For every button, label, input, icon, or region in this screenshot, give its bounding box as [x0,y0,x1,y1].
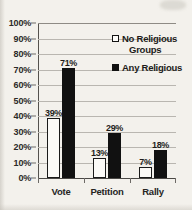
legend-label-line1: Any Religious [122,62,182,73]
bar-rally-any-religious: 18% [154,150,167,178]
legend-label-any-religious: Any Religious [122,62,182,73]
y-tick-50 [31,100,36,101]
legend-label-line1: No Religious [122,33,177,44]
x-tick-0 [38,178,39,183]
y-tick-label-40: 40% [14,111,31,121]
x-axis-label-petition: Petition [90,186,123,197]
bar-vote-no-religious-groups: 39% [47,118,60,178]
y-tick-label-0: 0% [18,173,31,183]
y-tick-90 [31,38,36,39]
y-tick-label-20: 20% [14,142,31,152]
legend-label-line2: Groups [122,44,177,55]
legend-swatch-hollow-square-icon [112,35,119,42]
y-tick-20 [31,147,36,148]
bar-value-label: 39% [45,108,62,118]
legend-item-no-religious-groups: No Religious Groups [112,33,190,55]
x-tick-1 [84,178,85,183]
y-tick-60 [31,85,36,86]
x-tick-2 [130,178,131,183]
bar-vote-any-religious: 71% [62,68,75,178]
x-axis-labels: VotePetitionRally [38,186,176,202]
y-tick-100 [31,23,36,24]
y-tick-label-100: 100% [9,18,31,28]
y-tick-label-50: 50% [14,96,31,106]
bar-value-label: 13% [91,148,108,158]
y-tick-80 [31,54,36,55]
bar-value-label: 71% [60,58,77,68]
bar-group-vote: 39%71% [38,23,84,178]
y-tick-label-30: 30% [14,127,31,137]
y-tick-0 [31,178,36,179]
y-tick-label-10: 10% [14,158,31,168]
x-axis-ticks [38,178,176,183]
y-tick-40 [31,116,36,117]
bar-value-label: 7% [139,157,151,167]
legend-swatch-filled-square-icon [112,64,119,71]
legend-item-any-religious: Any Religious [112,62,190,73]
y-axis-labels: 0%10%20%30%40%50%60%70%80%90%100% [0,23,36,178]
x-tick-3 [175,178,176,183]
y-tick-70 [31,69,36,70]
y-tick-label-60: 60% [14,80,31,90]
y-tick-label-90: 90% [14,34,31,44]
bar-value-label: 29% [106,123,123,133]
x-axis-label-rally: Rally [142,186,164,197]
bar-petition-no-religious-groups: 13% [93,158,106,178]
chart-legend: No Religious Groups Any Religious [112,33,190,80]
bar-value-label: 18% [152,140,169,150]
scan-artifact [160,0,186,10]
legend-label-no-religious-groups: No Religious Groups [122,33,177,55]
scan-edge-bottom [0,204,192,210]
bar-chart: 0%10%20%30%40%50%60%70%80%90%100% 39%71%… [0,0,192,210]
y-tick-label-80: 80% [14,49,31,59]
y-tick-10 [31,162,36,163]
bar-petition-any-religious: 29% [108,133,121,178]
bar-rally-no-religious-groups: 7% [139,167,152,178]
y-tick-label-70: 70% [14,65,31,75]
y-tick-30 [31,131,36,132]
x-axis-label-vote: Vote [51,186,70,197]
